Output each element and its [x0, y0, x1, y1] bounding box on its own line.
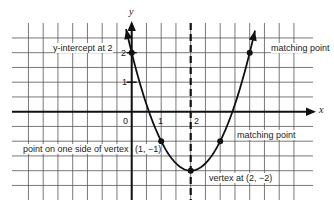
matching-point-bottom-label: matching point [237, 130, 296, 140]
y-intercept-label: y-intercept at 2 [53, 43, 113, 53]
tick-y1-label: 1 [122, 77, 127, 87]
y-axis-arrow-icon [128, 21, 136, 31]
point-marker [217, 138, 223, 144]
x-axis-label: x [319, 104, 323, 115]
parabola-graph [0, 0, 334, 213]
tick-origin-label: 0 [123, 116, 128, 126]
matching-point-top-label: matching point [271, 43, 330, 53]
x-axis-arrow-icon [306, 108, 316, 116]
point-marker [188, 168, 194, 174]
tick-x1-label: 1 [158, 116, 163, 126]
tick-y2-label: 2 [121, 48, 126, 58]
tick-x2-label: 2 [194, 116, 199, 126]
point-side-label: point on one side of vertex [23, 144, 129, 154]
vertex-label: vertex at (2, −2) [209, 173, 272, 183]
point-marker [247, 50, 253, 56]
y-axis-label: y [129, 6, 133, 17]
point-marker [129, 50, 135, 56]
point-side-coord-label: (1, −1) [135, 144, 161, 154]
